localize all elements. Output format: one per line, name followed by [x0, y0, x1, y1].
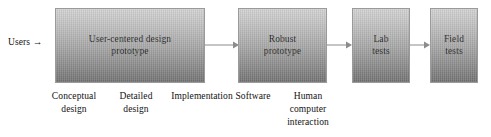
- process-flow-diagram: Users → User-centered design prototype R…: [0, 0, 491, 137]
- arrow-lab-to-field-icon: [410, 39, 430, 51]
- users-label-text: Users: [8, 37, 30, 47]
- process-box-field-tests[interactable]: Field tests: [430, 8, 478, 83]
- process-box-label: Lab tests: [369, 34, 392, 58]
- process-box-label: Robust prototype: [261, 34, 304, 58]
- caption-human-computer-interaction: Human computer interaction: [280, 90, 336, 128]
- users-entry-label: Users →: [8, 37, 42, 47]
- process-box-user-centered-design-prototype[interactable]: User-centered design prototype: [55, 8, 205, 83]
- arrow-robust-to-lab-icon: [327, 39, 352, 51]
- arrow-right-icon: →: [33, 37, 43, 47]
- caption-software: Software: [229, 90, 277, 103]
- process-box-label: User-centered design prototype: [86, 34, 174, 58]
- arrow-prototype-to-robust-icon: [205, 39, 239, 51]
- process-box-label: Field tests: [441, 34, 467, 58]
- caption-detailed-design: Detailed design: [110, 90, 162, 116]
- caption-conceptual-design: Conceptual design: [40, 90, 108, 116]
- process-box-lab-tests[interactable]: Lab tests: [352, 8, 410, 83]
- process-box-robust-prototype[interactable]: Robust prototype: [238, 8, 327, 83]
